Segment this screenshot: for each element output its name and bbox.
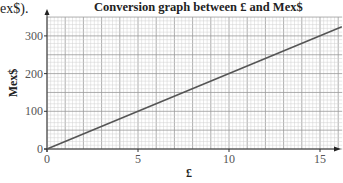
x-tick-label: 15 [314,152,326,166]
conversion-chart: 0510150100200300 £ Mex$ [0,0,343,183]
grid [47,17,342,149]
y-axis-label: Mex$ [6,69,20,98]
x-tick-label: 10 [223,152,235,166]
y-tick-label: 300 [25,29,43,43]
x-tick-label: 5 [135,152,141,166]
data-series [47,27,342,149]
x-axis-label: £ [186,166,192,180]
y-tick-label: 0 [37,142,43,156]
y-tick-label: 100 [25,104,43,118]
x-tick-label: 0 [44,152,50,166]
y-tick-label: 200 [25,67,43,81]
conversion-line [47,27,342,149]
